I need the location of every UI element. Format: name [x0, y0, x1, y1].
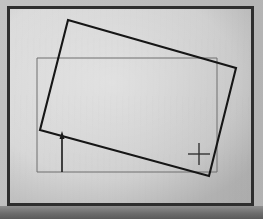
vector-drawing-layer	[0, 0, 263, 219]
rotated-rectangle	[40, 20, 236, 176]
reference-rectangle	[37, 58, 217, 172]
diagram-scene	[0, 0, 263, 219]
